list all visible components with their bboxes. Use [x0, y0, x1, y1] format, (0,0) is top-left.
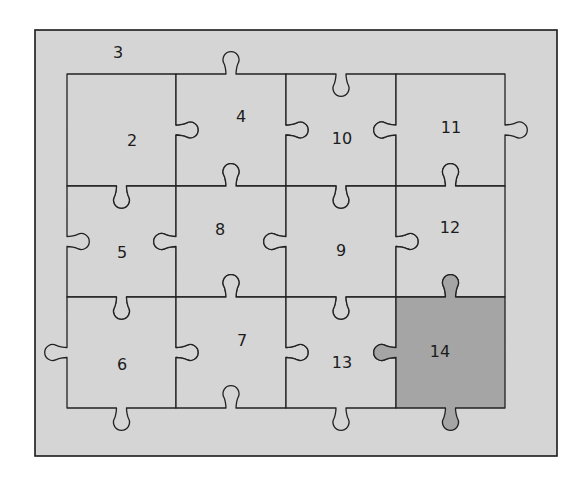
puzzle-piece-label: 5	[117, 243, 127, 262]
puzzle-piece-label: 8	[215, 220, 225, 239]
puzzle-piece-label: 6	[117, 355, 127, 374]
puzzle-pieces: 24101158912671314	[45, 52, 528, 431]
puzzle-piece-label: 2	[127, 131, 137, 150]
puzzle-piece-label: 4	[236, 107, 246, 126]
outside-piece-label: 3	[113, 43, 123, 62]
puzzle-diagram: 24101158912671314 3	[0, 0, 588, 481]
puzzle-piece-label: 10	[332, 129, 352, 148]
puzzle-piece-label: 14	[430, 342, 450, 361]
puzzle-piece-label: 11	[441, 118, 461, 137]
puzzle-piece-label: 7	[237, 331, 247, 350]
puzzle-piece-label: 9	[336, 241, 346, 260]
puzzle-piece-label: 12	[440, 218, 460, 237]
puzzle-piece-label: 13	[332, 353, 352, 372]
